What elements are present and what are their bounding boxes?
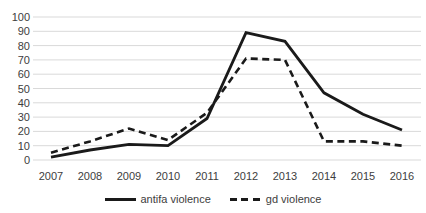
y-axis-tick-label: 60 [18,68,30,80]
legend-item-gd-violence: gd violence [230,193,322,205]
y-axis-tick-label: 100 [12,11,30,23]
y-axis-tick-label: 50 [18,83,30,95]
legend: antifa violence gd violence [0,191,426,207]
y-axis-tick-label: 40 [18,97,30,109]
series-line-antifa-violence [51,33,402,157]
plot-area: 0102030405060708090100200720082009201020… [0,0,426,213]
y-axis-tick-label: 0 [24,154,30,166]
y-axis-tick-label: 90 [18,25,30,37]
x-axis-tick-label: 2015 [351,170,375,182]
x-axis-tick-label: 2007 [39,170,63,182]
legend-label-antifa-violence: antifa violence [141,193,211,205]
legend-label-gd-violence: gd violence [266,193,322,205]
y-axis-tick-label: 30 [18,111,30,123]
line-chart: 0102030405060708090100200720082009201020… [0,0,426,213]
y-axis-tick-label: 20 [18,125,30,137]
legend-item-antifa-violence: antifa violence [105,193,211,205]
y-axis-tick-label: 10 [18,140,30,152]
y-axis-tick-label: 80 [18,40,30,52]
x-axis-tick-label: 2008 [78,170,102,182]
x-axis-tick-label: 2011 [195,170,219,182]
x-axis-tick-label: 2014 [312,170,336,182]
x-axis-tick-label: 2012 [234,170,258,182]
x-axis-tick-label: 2013 [273,170,297,182]
x-axis-tick-label: 2010 [156,170,180,182]
solid-line-swatch [105,198,136,201]
y-axis-tick-label: 70 [18,54,30,66]
x-axis-tick-label: 2009 [117,170,141,182]
dashed-line-swatch [230,198,261,201]
x-axis-tick-label: 2016 [390,170,414,182]
